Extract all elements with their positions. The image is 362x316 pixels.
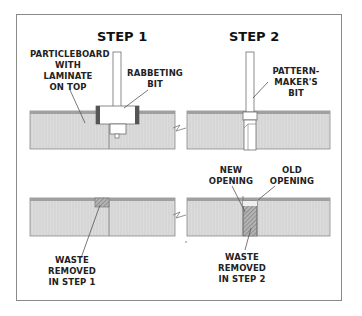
label-waste-step2: WASTE REMOVED IN STEP 2 [212, 252, 272, 285]
label-waste-step1: WASTE REMOVED IN STEP 1 [42, 255, 102, 288]
step1-bottom-board [30, 198, 175, 236]
label-rabbeting-bit: RABBETING BIT [127, 68, 183, 90]
step2-bottom-board [187, 196, 330, 236]
dot [185, 241, 186, 242]
step2-top-board [187, 111, 330, 149]
pattern-makers-bit-icon [243, 52, 257, 150]
label-particleboard: PARTICLEBOARD WITH LAMINATE ON TOP [30, 49, 106, 93]
label-new-opening: NEW OPENING [201, 165, 261, 187]
step1-title: STEP 1 [97, 29, 147, 44]
label-old-opening: OLD OPENING [262, 165, 322, 187]
label-pattern-makers-bit: PATTERN- MAKER'S BIT [268, 66, 324, 99]
step2-title: STEP 2 [229, 29, 279, 44]
waste-step1-region [95, 198, 109, 207]
